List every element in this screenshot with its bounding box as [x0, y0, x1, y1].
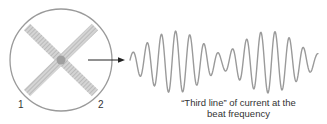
beam-2-label: 2 [98, 99, 104, 110]
caption-line-2: beat frequency [150, 108, 327, 119]
beam-1-label: 1 [18, 99, 24, 110]
beat-frequency-diagram: 1 2 “Third line” of current at the beat … [0, 0, 327, 124]
caption-line-1: “Third line” of current at the [150, 97, 327, 108]
caption: “Third line” of current at the beat freq… [150, 97, 327, 119]
beam-crossing [57, 56, 66, 65]
beat-waveform [130, 31, 318, 93]
